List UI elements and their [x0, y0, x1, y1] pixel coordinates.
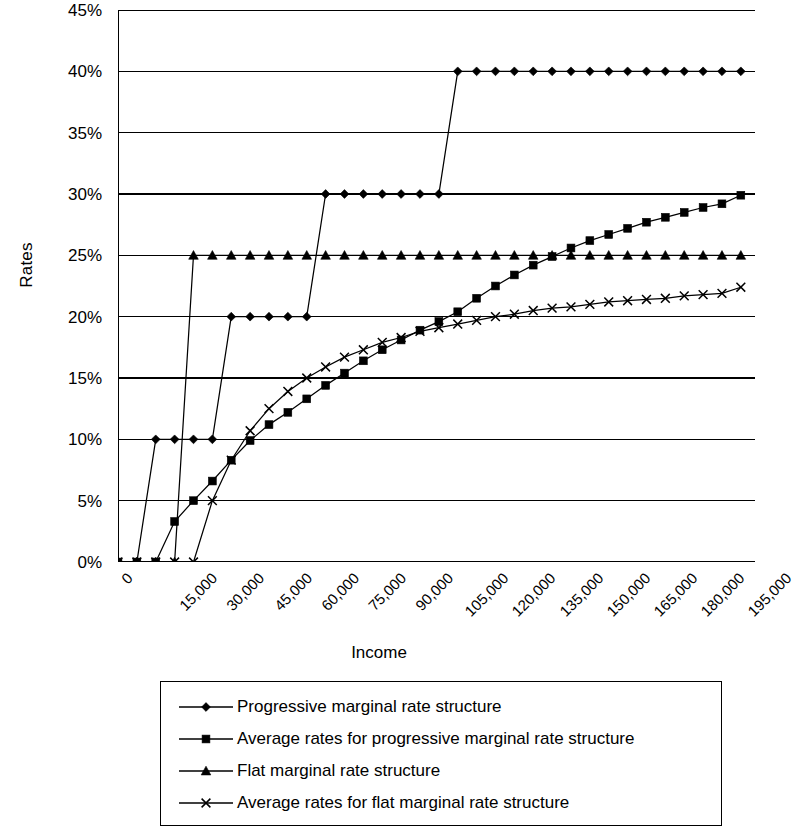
- data-point-diamond: [623, 67, 632, 76]
- data-point-x: [340, 353, 349, 362]
- data-point-diamond: [491, 67, 500, 76]
- x-axis-tick-label: 195,000: [745, 570, 794, 619]
- data-point-square: [454, 308, 462, 316]
- data-point-square: [737, 191, 745, 199]
- data-point-diamond: [736, 67, 745, 76]
- data-point-square: [265, 421, 273, 429]
- data-point-diamond: [265, 312, 274, 321]
- data-point-square: [492, 282, 500, 290]
- x-axis-tick-label: 75,000: [365, 570, 408, 613]
- legend-label: Flat marginal rate structure: [237, 761, 440, 781]
- data-point-square: [208, 477, 216, 485]
- x-axis-title: Income: [0, 643, 758, 663]
- y-axis-tick-label: 35%: [40, 125, 102, 142]
- data-point-diamond: [529, 67, 538, 76]
- data-point-diamond: [246, 312, 255, 321]
- data-point-x: [189, 558, 198, 562]
- x-axis-tick-label: 90,000: [413, 570, 456, 613]
- series-square: [118, 191, 745, 562]
- data-point-diamond: [302, 312, 311, 321]
- plot-canvas: [118, 10, 755, 562]
- x-axis-tick-labels: 015,00030,00045,00060,00075,00090,000105…: [0, 568, 758, 638]
- plot-area: [118, 10, 755, 562]
- data-point-diamond: [170, 435, 179, 444]
- legend-label: Progressive marginal rate structure: [237, 697, 502, 717]
- series-line: [118, 195, 741, 562]
- data-point-diamond: [472, 67, 481, 76]
- data-point-diamond: [340, 190, 349, 199]
- data-point-x: [246, 426, 255, 435]
- chart-legend: Progressive marginal rate structureAvera…: [160, 681, 722, 826]
- x-axis-tick-label: 105,000: [462, 570, 511, 619]
- data-point-square: [322, 381, 330, 389]
- data-point-diamond: [699, 67, 708, 76]
- data-point-diamond: [585, 67, 594, 76]
- data-point-diamond: [227, 312, 236, 321]
- data-point-square: [699, 204, 707, 212]
- data-point-square: [359, 357, 367, 365]
- x-axis-tick-label: 135,000: [557, 570, 606, 619]
- data-point-diamond: [321, 190, 330, 199]
- data-point-square: [341, 369, 349, 377]
- x-axis-tick-label: 30,000: [224, 570, 267, 613]
- legend-label: Average rates for flat marginal rate str…: [237, 793, 569, 813]
- data-point-square: [718, 200, 726, 208]
- x-axis-tick-label: 45,000: [271, 570, 314, 613]
- y-axis-tick-label: 30%: [40, 186, 102, 203]
- legend-item: Progressive marginal rate structure: [161, 691, 721, 723]
- data-point-diamond: [510, 67, 519, 76]
- data-point-diamond: [642, 67, 651, 76]
- x-axis-tick-label: 60,000: [318, 570, 361, 613]
- data-point-square: [529, 261, 537, 269]
- y-axis-tick-label: 25%: [40, 247, 102, 264]
- data-point-square: [473, 294, 481, 302]
- y-axis-title: Rates: [17, 210, 37, 320]
- legend-marker-triangle: [175, 761, 237, 781]
- legend-marker-square: [175, 729, 237, 749]
- x-axis-tick-label: 180,000: [698, 570, 747, 619]
- y-axis-tick-label: 5%: [40, 493, 102, 510]
- data-point-diamond: [283, 312, 292, 321]
- data-point-diamond: [661, 67, 670, 76]
- data-point-square: [661, 213, 669, 221]
- legend-item: Average rates for progressive marginal r…: [161, 723, 721, 755]
- data-point-square: [303, 395, 311, 403]
- x-axis-tick-label: 150,000: [604, 570, 653, 619]
- data-point-square: [202, 735, 210, 743]
- data-point-square: [643, 218, 651, 226]
- data-point-diamond: [208, 435, 217, 444]
- data-point-diamond: [189, 435, 198, 444]
- data-point-diamond: [548, 67, 557, 76]
- series-triangle: [118, 251, 746, 562]
- y-axis-tick-label: 15%: [40, 370, 102, 387]
- y-axis-tick-label: 10%: [40, 431, 102, 448]
- y-axis-tick-label: 40%: [40, 63, 102, 80]
- y-axis-tick-label: 45%: [40, 2, 102, 19]
- legend-item: Flat marginal rate structure: [161, 755, 721, 787]
- data-point-x: [265, 404, 274, 413]
- y-axis-tick-label: 20%: [40, 309, 102, 326]
- data-point-square: [190, 497, 198, 505]
- data-point-diamond: [434, 190, 443, 199]
- data-point-diamond: [397, 190, 406, 199]
- data-point-x: [283, 387, 292, 396]
- data-point-diamond: [151, 435, 160, 444]
- data-point-diamond: [680, 67, 689, 76]
- data-point-diamond: [378, 190, 387, 199]
- x-axis-tick-label: 120,000: [509, 570, 558, 619]
- data-point-diamond: [718, 67, 727, 76]
- legend-marker-x: [175, 793, 237, 813]
- data-point-diamond: [567, 67, 576, 76]
- data-point-diamond: [359, 190, 368, 199]
- x-axis-tick-label: 0: [118, 570, 135, 587]
- data-point-diamond: [604, 67, 613, 76]
- series-line: [118, 287, 741, 562]
- data-point-square: [680, 209, 688, 217]
- legend-marker-diamond: [175, 697, 237, 717]
- data-point-square: [605, 231, 613, 239]
- y-axis-tick-labels: 0%5%10%15%20%25%30%35%40%45%: [40, 0, 102, 580]
- legend-item: Average rates for flat marginal rate str…: [161, 787, 721, 819]
- data-point-diamond: [453, 67, 462, 76]
- legend-label: Average rates for progressive marginal r…: [237, 729, 634, 749]
